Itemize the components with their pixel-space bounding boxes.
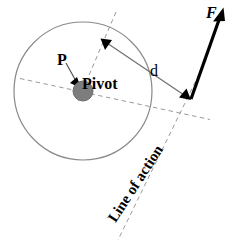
pivot-label: Pivot: [82, 76, 118, 92]
distance-d-label: d: [150, 63, 158, 79]
moment-arm-arrowhead-right: [179, 89, 191, 101]
force-vector-shaft: [191, 17, 220, 99]
torque-diagram: P Pivot d F Line of action: [0, 0, 246, 240]
force-f-label: F: [206, 5, 217, 21]
point-p-label: P: [57, 52, 67, 68]
